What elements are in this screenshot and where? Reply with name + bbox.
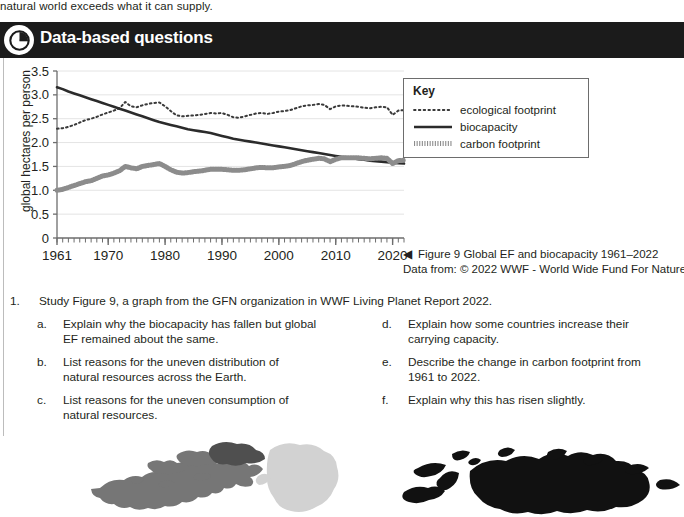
sub-question-d: d. Explain how some countries increase t… [382,317,663,347]
legend-label: carbon footprint [460,138,540,150]
sub-question-text: Describe the change in carbon footprint … [408,355,663,385]
figure-9-chart: global hectares per person 00.51.01.52.0… [0,60,420,285]
sub-question-f: f. Explain why this has risen slightly. [382,393,663,408]
sub-question-c: c. List reasons for the uneven consumpti… [37,393,318,423]
section-title: Data-based questions [40,28,213,48]
sub-question-text: Explain why the biocapacity has fallen b… [63,317,318,347]
legend-item-ecological-footprint: ecological footprint [413,101,580,118]
sub-question-text: List reasons for the uneven consumption … [63,393,318,423]
world-map-illustration [0,436,684,517]
caption-source: Data from: © 2022 WWF - World Wide Fund … [403,263,684,275]
svg-text:3.0: 3.0 [31,87,49,102]
legend-item-biocapacity: biocapacity [413,118,580,135]
map-landmass-greenland [256,443,339,512]
legend-title: Key [413,84,580,98]
svg-text:1.5: 1.5 [31,159,49,174]
svg-text:1970: 1970 [93,248,123,263]
legend-swatch-dotted [413,105,453,115]
sub-question-text: Explain why this has risen slightly. [408,393,663,408]
map-landmass-north-america [91,442,265,510]
chart-legend: Key ecological footprint biocapacity car… [403,78,589,158]
legend-label: biocapacity [460,121,518,133]
sub-question-b: b. List reasons for the uneven distribut… [37,355,318,385]
chart-svg: 00.51.01.52.02.53.03.5196119701980199020… [0,60,420,285]
questions-block: 1. Study Figure 9, a graph from the GFN … [0,294,684,434]
sub-question-letter: c. [37,393,63,423]
legend-swatch-hatched [413,139,453,149]
legend-swatch-solid [413,122,453,132]
svg-text:2000: 2000 [264,248,294,263]
legend-item-carbon-footprint: carbon footprint [413,135,580,152]
svg-text:2.5: 2.5 [31,111,49,126]
svg-text:3.5: 3.5 [31,64,49,79]
figure-caption: ◀ Figure 9 Global EF and biocapacity 196… [403,248,684,275]
svg-text:1990: 1990 [207,248,237,263]
caption-text: Figure 9 Global EF and biocapacity 1961–… [418,248,658,260]
sub-question-text: Explain how some countries increase thei… [408,317,663,347]
sub-question-letter: b. [37,355,63,385]
sub-question-letter: e. [382,355,408,385]
question-stem: 1. Study Figure 9, a graph from the GFN … [10,294,492,308]
sub-question-letter: d. [382,317,408,347]
svg-text:1961: 1961 [42,248,72,263]
question-stem-text: Study Figure 9, a graph from the GFN org… [39,294,492,308]
sub-question-text: List reasons for the uneven distribution… [63,355,318,385]
svg-text:1980: 1980 [150,248,180,263]
svg-text:0.5: 0.5 [31,207,49,222]
svg-text:1.0: 1.0 [31,183,49,198]
sub-question-letter: a. [37,317,63,347]
question-number: 1. [10,294,39,308]
map-landmass-eurasia [402,448,680,515]
caption-primary: ◀ Figure 9 Global EF and biocapacity 196… [403,248,684,260]
svg-text:2.0: 2.0 [31,135,49,150]
legend-label: ecological footprint [460,104,556,116]
caption-arrow-icon: ◀ [403,248,412,260]
svg-text:0: 0 [42,231,49,246]
sub-question-e: e. Describe the change in carbon footpri… [382,355,663,385]
running-text: natural world exceeds what it can supply… [0,0,420,12]
textbook-page: natural world exceeds what it can supply… [0,0,684,517]
svg-text:2010: 2010 [321,248,351,263]
sub-question-a: a. Explain why the biocapacity has falle… [37,317,318,347]
sub-question-letter: f. [382,393,408,408]
world-map-svg [0,436,684,517]
